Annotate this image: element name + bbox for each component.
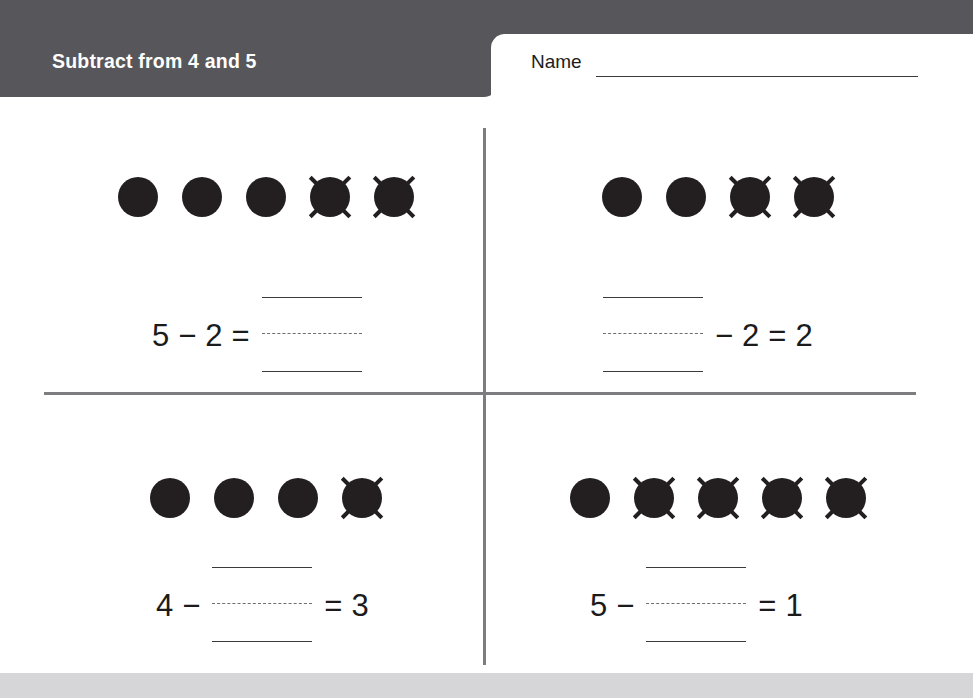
equals-sign: =: [758, 590, 776, 621]
counter-dot[interactable]: [108, 167, 168, 227]
counter-dot-crossed[interactable]: [752, 468, 812, 528]
counter-dot-crossed[interactable]: [720, 167, 780, 227]
answer-blank[interactable]: [262, 297, 362, 373]
blank-top-line: [646, 567, 746, 568]
circle-icon: [666, 177, 706, 217]
answer-blank[interactable]: [646, 567, 746, 643]
vertical-divider: [483, 128, 486, 665]
circle-icon: [278, 478, 318, 518]
blank-mid-dashed-line: [212, 603, 312, 604]
circle-icon: [214, 478, 254, 518]
blank-top-line: [262, 297, 362, 298]
minus-sign: −: [178, 320, 196, 351]
circle-icon: [118, 177, 158, 217]
counter-dot[interactable]: [172, 167, 232, 227]
blank-bottom-line: [603, 371, 703, 372]
counter-row: [108, 167, 428, 227]
header-banner-tab: [0, 0, 497, 97]
circle-icon: [150, 478, 190, 518]
circle-icon: [246, 177, 286, 217]
cross-out-x-icon: [752, 468, 812, 528]
equals-sign: =: [324, 590, 342, 621]
counter-row: [560, 468, 880, 528]
blank-bottom-line: [212, 641, 312, 642]
page-title: Subtract from 4 and 5: [52, 50, 257, 73]
horizontal-divider: [44, 392, 916, 395]
minus-sign: −: [616, 590, 634, 621]
worksheet-page: Subtract from 4 and 5 Name 5−2=−2=24−=35…: [0, 0, 973, 698]
circle-icon: [602, 177, 642, 217]
name-panel: Name: [491, 34, 973, 100]
minus-sign: −: [182, 590, 200, 621]
equation-number: 2: [742, 320, 759, 351]
equation: 5−2=: [152, 297, 365, 373]
name-label: Name: [531, 51, 582, 73]
blank-bottom-line: [646, 641, 746, 642]
blank-mid-dashed-line: [646, 603, 746, 604]
counter-dot[interactable]: [236, 167, 296, 227]
equation: −2=2: [600, 297, 813, 373]
equation-number: 2: [795, 320, 812, 351]
counter-row: [592, 167, 848, 227]
counter-dot[interactable]: [268, 468, 328, 528]
equation-number: 4: [156, 590, 173, 621]
blank-top-line: [603, 297, 703, 298]
blank-bottom-line: [262, 371, 362, 372]
equals-sign: =: [232, 320, 250, 351]
equation-number: 2: [205, 320, 222, 351]
counter-dot[interactable]: [204, 468, 264, 528]
answer-blank[interactable]: [603, 297, 703, 373]
name-input-line[interactable]: [596, 76, 918, 77]
counter-dot-crossed[interactable]: [364, 167, 424, 227]
cross-out-x-icon: [688, 468, 748, 528]
counter-dot[interactable]: [656, 167, 716, 227]
counter-dot-crossed[interactable]: [332, 468, 392, 528]
counter-dot[interactable]: [560, 468, 620, 528]
blank-mid-dashed-line: [262, 333, 362, 334]
circle-icon: [182, 177, 222, 217]
cross-out-x-icon: [364, 167, 424, 227]
cross-out-x-icon: [816, 468, 876, 528]
minus-sign: −: [715, 320, 733, 351]
blank-top-line: [212, 567, 312, 568]
equation-number: 5: [590, 590, 607, 621]
footer-band: [0, 673, 973, 698]
cross-out-x-icon: [332, 468, 392, 528]
counter-dot-crossed[interactable]: [300, 167, 360, 227]
circle-icon: [570, 478, 610, 518]
cross-out-x-icon: [624, 468, 684, 528]
equation: 5−=1: [590, 567, 803, 643]
cross-out-x-icon: [784, 167, 844, 227]
counter-dot-crossed[interactable]: [784, 167, 844, 227]
blank-mid-dashed-line: [603, 333, 703, 334]
cross-out-x-icon: [300, 167, 360, 227]
counter-dot-crossed[interactable]: [816, 468, 876, 528]
equals-sign: =: [768, 320, 786, 351]
counter-dot-crossed[interactable]: [688, 468, 748, 528]
equation-number: 3: [351, 590, 368, 621]
equation-number: 1: [785, 590, 802, 621]
equation: 4−=3: [156, 567, 369, 643]
counter-dot-crossed[interactable]: [624, 468, 684, 528]
answer-blank[interactable]: [212, 567, 312, 643]
cross-out-x-icon: [720, 167, 780, 227]
equation-number: 5: [152, 320, 169, 351]
counter-row: [140, 468, 396, 528]
counter-dot[interactable]: [140, 468, 200, 528]
counter-dot[interactable]: [592, 167, 652, 227]
